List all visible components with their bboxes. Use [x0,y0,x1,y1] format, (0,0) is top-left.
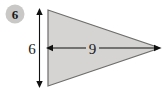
height-dimension-group: 6 [28,8,42,88]
height-arrow-down-icon [36,81,42,88]
base-measure-label: 9 [89,41,97,57]
geometry-figure-container: 6 6 9 [0,0,167,91]
height-arrow-up-icon [36,8,42,15]
problem-number-label: 6 [12,7,19,22]
geometry-figure-svg: 6 6 9 [0,0,167,91]
height-measure-label: 6 [28,41,36,57]
base-arrow-right-icon [154,45,161,51]
problem-number-badge: 6 [6,5,25,24]
